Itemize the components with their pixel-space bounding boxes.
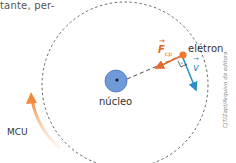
atom-orbit-diagram [0, 0, 236, 163]
force-subscript: cp [165, 50, 172, 57]
mcu-arrow [32, 100, 60, 148]
centripetal-force-label: →Fcp [158, 44, 172, 57]
mcu-label: MCU [7, 127, 28, 137]
velocity-symbol: v [193, 62, 199, 73]
electron-label: elétron [188, 43, 223, 54]
nucleus-label: núcleo [99, 96, 132, 107]
force-symbol: F [158, 44, 165, 55]
nucleus [105, 70, 127, 92]
velocity-label: →v [193, 62, 199, 73]
image-credit: CJT/Zapt/Arquivo da editora [222, 52, 228, 128]
electron [179, 51, 186, 58]
